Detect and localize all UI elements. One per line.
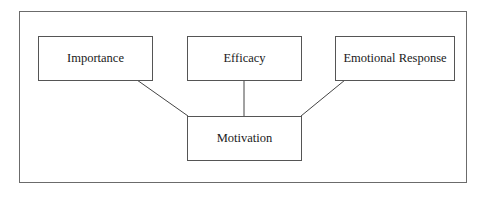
node-importance: Importance [38,36,153,81]
node-label: Emotional Response [343,51,446,66]
node-motivation: Motivation [187,116,302,161]
node-efficacy: Efficacy [187,36,302,81]
edge-emotional-response-motivation [301,80,345,116]
edge-importance-motivation [137,80,188,116]
connector-lines [0,0,487,197]
node-label: Efficacy [223,51,265,66]
node-emotional-response: Emotional Response [335,36,455,81]
node-label: Importance [67,51,124,66]
node-label: Motivation [217,131,273,146]
